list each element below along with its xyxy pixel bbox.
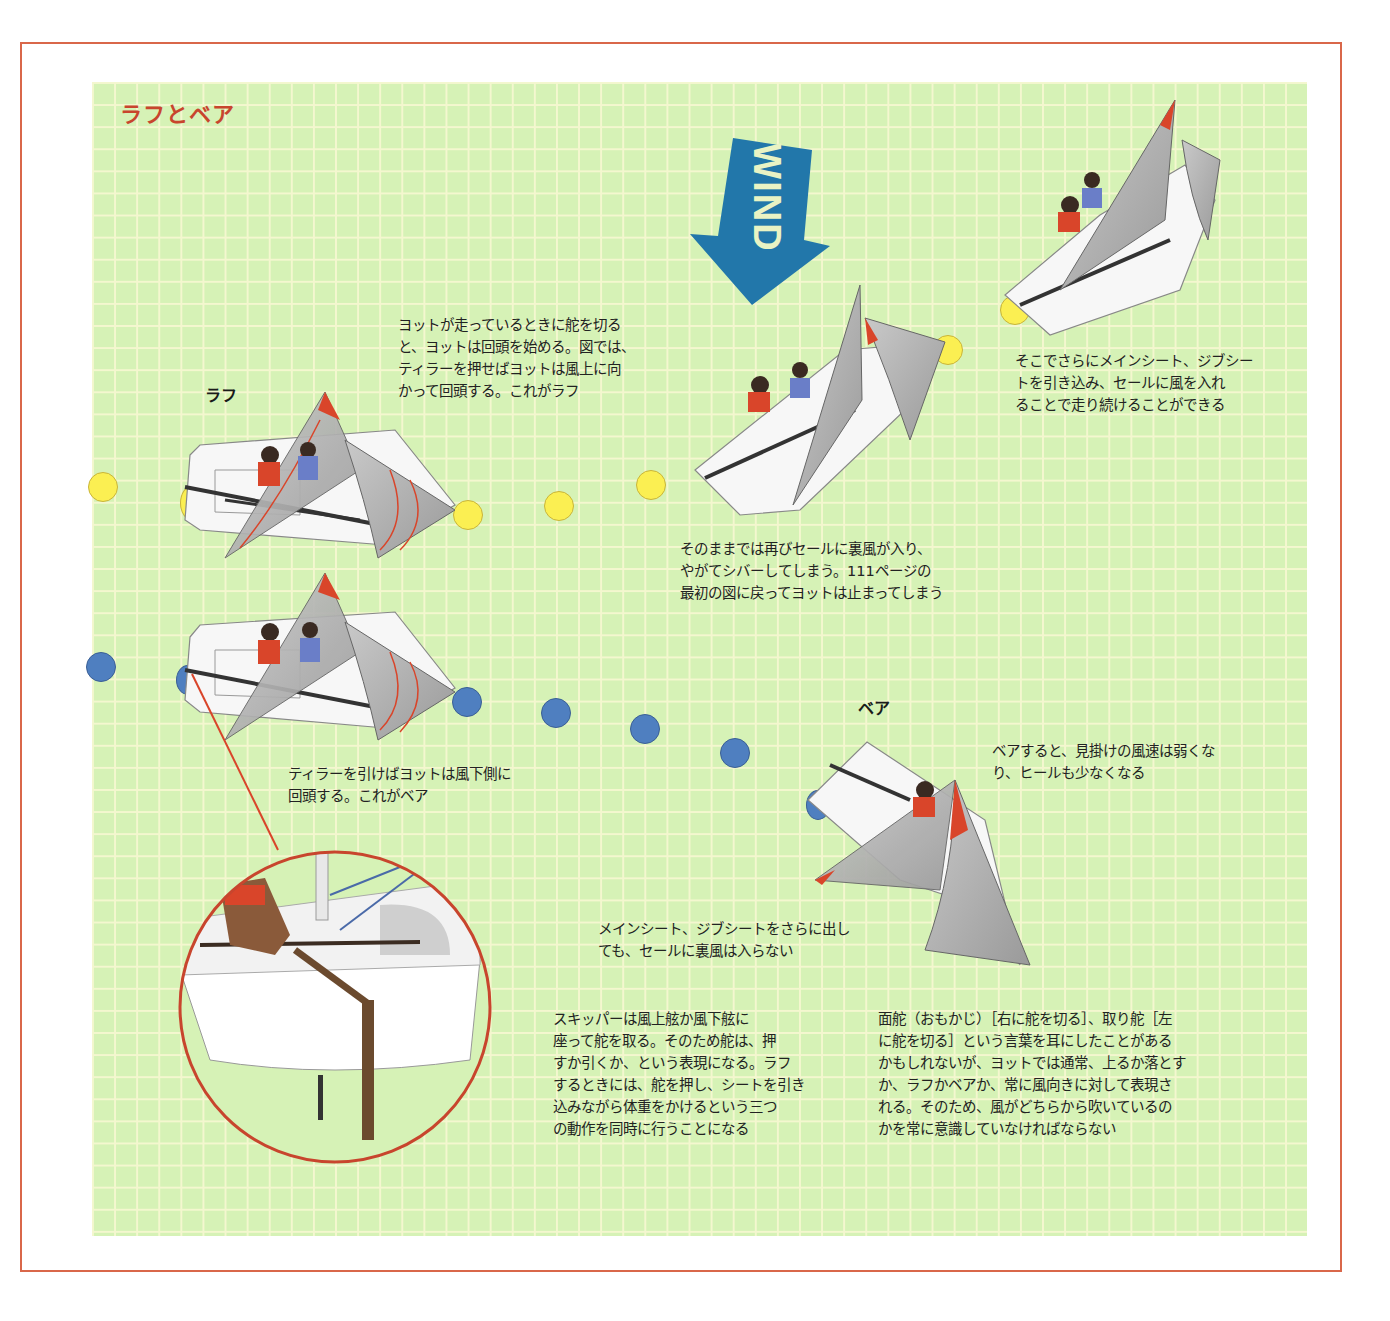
caption-terms: 面舵（おもかじ）［右に舵を切る］、取り舵［左 に舵を切る］という言葉を耳にしたこ… (878, 1008, 1186, 1140)
caption-bear-intro: ティラーを引けばヨットは風下側に 回頭する。これがベア (288, 763, 511, 807)
luff-label: ラフ (205, 382, 237, 406)
caption-bear-result: ベアすると、見掛けの風速は弱くな り、ヒールも少なくなる (992, 740, 1215, 784)
tiller-detail-inset (180, 850, 490, 1162)
bear-label: ベア (858, 695, 890, 719)
caption-keep-sailing: そこでさらにメインシート、ジブシー トを引き込み、セールに風を入れ ることで走り… (1015, 350, 1253, 416)
boat-shiver-middle (695, 285, 945, 515)
caption-ease-sheets: メインシート、ジブシートをさらに出し ても、セールに裏風は入らない (598, 918, 850, 962)
caption-shiver: そのままでは再びセールに裏風が入り、 やがてシバーしてしまう。111ページの 最… (680, 538, 943, 604)
boat-luff-top (185, 392, 455, 558)
wind-label: WIND (747, 143, 787, 253)
boat-bear-left (185, 573, 455, 740)
boat-keep-sailing (1005, 100, 1220, 335)
caption-luff-intro: ヨットが走っているときに舵を切る と、ヨットは回頭を始める。図では、 ティラーを… (398, 314, 635, 402)
caption-skipper: スキッパーは風上舷か風下舷に 座って舵を取る。そのため舵は、押 すか引くか、とい… (553, 1008, 805, 1140)
